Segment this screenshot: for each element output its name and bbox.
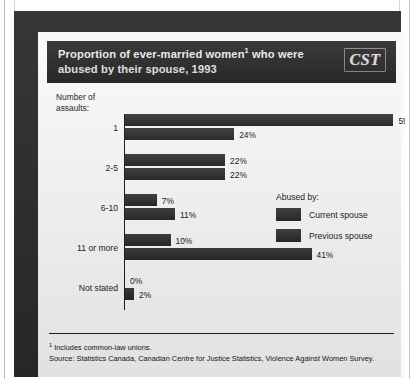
bar-value-label: 11% <box>180 210 196 220</box>
legend-swatch-icon <box>276 208 301 221</box>
bar <box>125 128 234 140</box>
bar-value-label: 2% <box>139 290 151 300</box>
figure-frame: Proportion of ever-married women1 who we… <box>14 11 401 377</box>
category-label: 11 or more <box>38 243 118 253</box>
bar <box>125 194 157 206</box>
figure-panel: Proportion of ever-married women1 who we… <box>38 32 405 378</box>
figure-title-bar: Proportion of ever-married women1 who we… <box>47 41 396 83</box>
legend-swatch-icon <box>276 229 301 242</box>
bar-value-label: 22% <box>230 156 247 166</box>
footnote-source: Source: Statistics Canada, Canadian Cent… <box>49 354 394 365</box>
bar-value-label: 59% <box>398 116 405 126</box>
legend-item: Previous spouse <box>276 229 401 242</box>
bar <box>125 154 225 166</box>
bar-value-label: 10% <box>176 236 193 246</box>
category-label: 6-10 <box>38 203 118 213</box>
bar-value-label: 22% <box>230 170 247 180</box>
bar <box>125 114 393 126</box>
bar-value-label: 41% <box>317 250 334 260</box>
page-edge-right <box>409 0 410 379</box>
title-line2: abused by their spouse, 1993 <box>58 63 217 75</box>
cst-logo-icon: CST <box>344 48 386 72</box>
title-line1: Proportion of ever-married women <box>58 48 245 60</box>
legend-title: Abused by: <box>276 192 401 202</box>
bar-group: Not stated0%2% <box>38 274 405 300</box>
legend-rows: Current spousePrevious spouse <box>276 208 401 242</box>
legend-item-label: Previous spouse <box>309 231 373 241</box>
footnote-rule <box>49 333 394 334</box>
bar-group: 2-522%22% <box>38 154 405 180</box>
scanned-figure: Proportion of ever-married women1 who we… <box>0 0 413 379</box>
legend-item-label: Current spouse <box>309 210 368 220</box>
page-edge-left <box>4 0 5 379</box>
page-title: Proportion of ever-married women1 who we… <box>58 47 348 77</box>
bar <box>125 234 171 246</box>
title-line1-tail: who were <box>249 48 304 60</box>
category-label: 2-5 <box>38 163 118 173</box>
bar-value-label: 0% <box>130 276 142 286</box>
footnotes: 1 Includes common-law unions. Source: St… <box>49 343 394 364</box>
chart-legend: Abused by: Current spousePrevious spouse <box>276 192 401 250</box>
footnote-note-text: Includes common-law unions. <box>52 343 151 352</box>
bar-group: 159%24% <box>38 114 405 140</box>
bar-value-label: 7% <box>162 196 174 206</box>
legend-item: Current spouse <box>276 208 401 221</box>
footnote-note: 1 Includes common-law unions. <box>49 343 394 354</box>
bar <box>125 208 175 220</box>
category-label: 1 <box>38 123 118 133</box>
y-axis-caption: Number of assaults: <box>56 92 95 113</box>
bar <box>125 168 225 180</box>
bar-chart: Number of assaults: 159%24%2-522%22%6-10… <box>38 87 405 327</box>
category-label: Not stated <box>38 283 118 293</box>
page-top-margin <box>14 0 400 11</box>
bar-value-label: 24% <box>239 130 256 140</box>
bar <box>125 288 134 300</box>
